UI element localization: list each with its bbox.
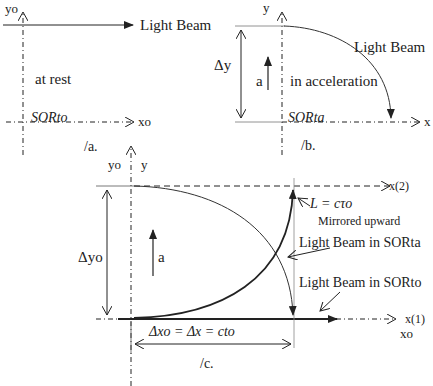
state-label: at rest	[35, 71, 72, 87]
caption-a: /a.	[84, 139, 98, 154]
light-beam-label: Light Beam	[140, 17, 212, 33]
x2-label: x(2)	[389, 179, 409, 193]
mirror-label: Mirrored upward	[318, 214, 400, 228]
beam-sorto-label: Light Beam in SORto	[299, 275, 422, 290]
state-label: in acceleration	[290, 73, 378, 89]
acceleration-label: a	[256, 73, 263, 89]
delta-x-label: Δxo = Δx = cto	[148, 324, 235, 339]
y0-axis-label: yo	[5, 1, 18, 16]
x0-axis-label: xo	[138, 114, 151, 129]
y0-label: yo	[108, 157, 121, 172]
y-label: y	[141, 157, 148, 172]
panel-a: yo xo Light Beam at rest SORto /a.	[3, 1, 212, 155]
frame-label: SORta	[288, 110, 325, 125]
x-axis-label: x	[424, 114, 431, 129]
mirrored-pointer	[298, 198, 310, 206]
acceleration-label: a	[158, 249, 165, 265]
x1-label: x(1)	[405, 312, 425, 326]
beam-sorta-label: Light Beam in SORta	[299, 235, 422, 250]
sorto-pointer	[320, 292, 340, 311]
light-beam-label: Light Beam	[354, 39, 426, 55]
relativity-diagram: yo xo Light Beam at rest SORto /a. y x L…	[0, 0, 433, 386]
y-axis-label: y	[263, 0, 270, 15]
caption-c: /c.	[200, 356, 214, 371]
panel-b: y x Light Beam in acceleration Δy a SORt…	[214, 0, 431, 155]
x0-label: xo	[400, 326, 413, 341]
delta-y0-label: Δyo	[78, 249, 103, 265]
caption-b: /b.	[301, 138, 315, 153]
length-label: L = cτo	[309, 196, 352, 211]
frame-label: SORto	[31, 110, 68, 125]
panel-c: yo y Δyo a x(2) x(1) xo L = cτo Mirrored…	[78, 146, 425, 386]
delta-y-label: Δy	[214, 57, 232, 73]
